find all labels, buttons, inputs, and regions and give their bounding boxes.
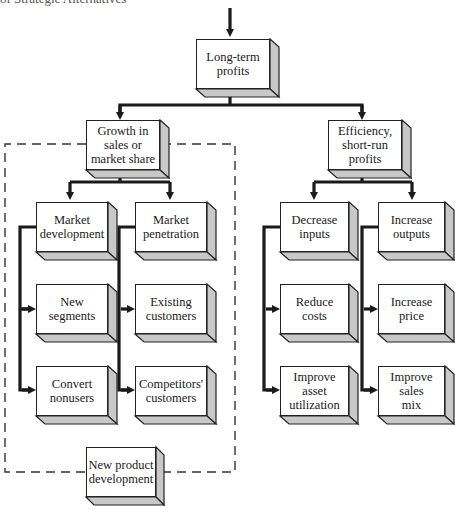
- node-label: Increase outputs: [391, 213, 433, 241]
- node-label: Long-term profits: [206, 50, 259, 78]
- node-label: Competitors' customers: [139, 377, 203, 405]
- node-label: Decrease inputs: [292, 213, 338, 241]
- node-label: Existing customers: [146, 295, 197, 323]
- node-label: Improve sales mix: [390, 370, 432, 412]
- node-label: Market development: [40, 213, 105, 241]
- node-label: Efficiency, short-run profits: [338, 124, 392, 166]
- node-label: Reduce costs: [296, 295, 333, 323]
- node-label: Convert nonusers: [50, 377, 94, 405]
- node-label: Growth in sales or market share: [91, 124, 155, 166]
- node-label: New product development: [89, 458, 154, 486]
- node-label: Increase price: [391, 295, 433, 323]
- node-label: Market penetration: [143, 213, 199, 241]
- node-label: New segments: [49, 295, 96, 323]
- node-label: Improve asset utilization: [289, 370, 340, 412]
